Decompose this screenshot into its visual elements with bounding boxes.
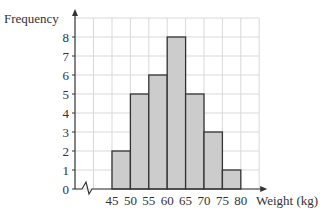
y-tick-label: 3 bbox=[63, 125, 70, 140]
x-tick-label: 60 bbox=[161, 193, 174, 208]
histogram-bar bbox=[186, 94, 204, 189]
y-tick-label: 5 bbox=[63, 87, 70, 102]
x-axis-label: Weight (kg) bbox=[256, 193, 318, 208]
y-axis-label: Frequency bbox=[4, 11, 59, 26]
x-tick-label: 75 bbox=[216, 193, 229, 208]
histogram-bar bbox=[149, 75, 167, 189]
histogram-bar bbox=[130, 94, 148, 189]
y-tick-label: 2 bbox=[63, 144, 70, 159]
histogram-bar bbox=[222, 170, 240, 189]
x-tick-label: 50 bbox=[124, 193, 137, 208]
x-tick-label: 70 bbox=[198, 193, 211, 208]
x-tick-labels: 4550556065707580 bbox=[106, 193, 248, 208]
x-tick-label: 65 bbox=[179, 193, 192, 208]
y-tick-label: 7 bbox=[63, 49, 70, 64]
x-tick-label: 55 bbox=[142, 193, 155, 208]
histogram-bar bbox=[112, 151, 130, 189]
x-tick-label: 45 bbox=[106, 193, 119, 208]
histogram-bar bbox=[204, 132, 222, 189]
y-tick-label: 0 bbox=[63, 182, 70, 197]
y-tick-label: 6 bbox=[63, 68, 70, 83]
y-tick-label: 4 bbox=[63, 106, 70, 121]
x-tick-label: 80 bbox=[234, 193, 247, 208]
histogram-chart: 012345678 4550556065707580 Frequency Wei… bbox=[0, 0, 331, 217]
histogram-bar bbox=[167, 37, 185, 189]
y-tick-label: 8 bbox=[63, 30, 70, 45]
y-tick-label: 1 bbox=[63, 163, 70, 178]
y-tick-labels: 012345678 bbox=[63, 30, 76, 197]
